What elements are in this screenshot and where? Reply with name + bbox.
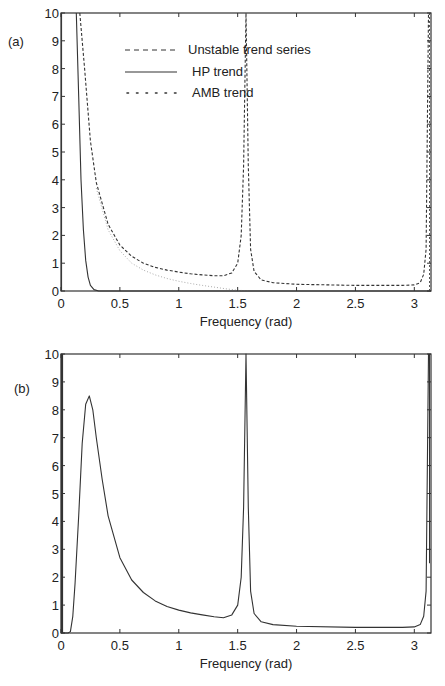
legend-label: Unstable trend series [188, 42, 311, 57]
y-tick-label: 2 [52, 228, 59, 243]
panel-a: (a) 012345678910 00.511.522.53 Frequency… [8, 6, 431, 329]
legend: Unstable trend series HP trend AMB trend [125, 42, 311, 100]
panel-b: (b) 012345678910 00.511.522.53 Frequency… [14, 347, 431, 671]
x-tick-label: 0 [57, 638, 64, 653]
panel-b-y-axis: 012345678910 [45, 347, 431, 641]
panel-a-x-axis: 00.511.522.53 [57, 13, 418, 311]
y-tick-label: 8 [52, 403, 59, 418]
x-tick-label: 3 [411, 296, 418, 311]
panel-b-frame [61, 354, 431, 633]
figure-canvas: (a) 012345678910 00.511.522.53 Frequency… [0, 0, 445, 686]
legend-item-unstable: Unstable trend series [125, 42, 311, 57]
x-tick-label: 2 [293, 296, 300, 311]
panel-b-x-axis-title: Frequency (rad) [200, 656, 292, 671]
y-tick-label: 6 [52, 117, 59, 132]
x-tick-label: 2.5 [346, 296, 364, 311]
y-tick-label: 8 [52, 62, 59, 77]
y-tick-label: 4 [52, 514, 59, 529]
x-tick-label: 1 [175, 296, 182, 311]
x-tick-label: 2 [293, 638, 300, 653]
y-tick-label: 3 [52, 542, 59, 557]
x-tick-label: 1.5 [229, 296, 247, 311]
y-tick-label: 1 [52, 598, 59, 613]
y-tick-label: 6 [52, 459, 59, 474]
x-tick-label: 3 [411, 638, 418, 653]
panel-a-label: (a) [8, 34, 24, 49]
x-tick-label: 1 [175, 638, 182, 653]
y-tick-label: 7 [52, 431, 59, 446]
y-tick-label: 7 [52, 89, 59, 104]
series-amb-trend [96, 188, 249, 291]
x-tick-label: 0 [57, 296, 64, 311]
y-tick-label: 9 [52, 375, 59, 390]
legend-item-amb: AMB trend [127, 85, 253, 100]
y-tick-label: 5 [52, 487, 59, 502]
x-tick-label: 2.5 [346, 638, 364, 653]
legend-label: AMB trend [192, 85, 253, 100]
legend-item-hp: HP trend [125, 64, 243, 79]
x-tick-label: 1.5 [229, 638, 247, 653]
series-filtered-series [61, 354, 429, 633]
panel-b-plot-area [61, 354, 430, 633]
panel-b-label: (b) [14, 381, 30, 396]
panel-b-x-axis: 00.511.522.53 [57, 354, 418, 653]
y-tick-label: 4 [52, 173, 59, 188]
y-tick-label: 10 [45, 6, 59, 21]
x-tick-label: 0.5 [111, 638, 129, 653]
y-tick-label: 2 [52, 570, 59, 585]
legend-label: HP trend [192, 64, 243, 79]
y-tick-label: 5 [52, 145, 59, 160]
y-tick-label: 3 [52, 201, 59, 216]
x-tick-label: 0.5 [111, 296, 129, 311]
y-tick-label: 1 [52, 256, 59, 271]
y-tick-label: 9 [52, 34, 59, 49]
panel-a-x-axis-title: Frequency (rad) [200, 314, 292, 329]
y-tick-label: 10 [45, 347, 59, 362]
